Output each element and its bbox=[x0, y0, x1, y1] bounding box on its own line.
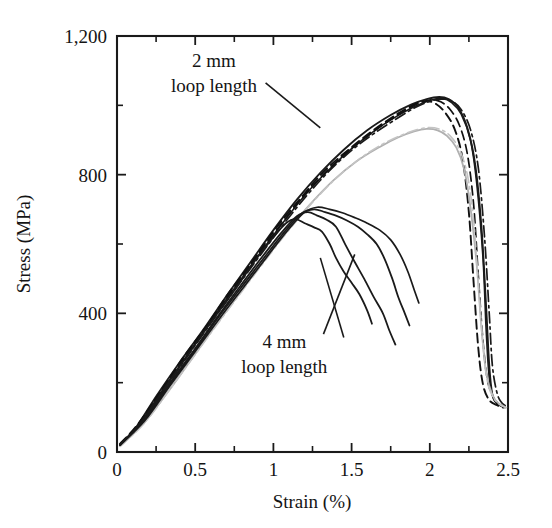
annotation-4mm-line2: loop length bbox=[241, 356, 328, 377]
y-tick-label: 1,200 bbox=[64, 26, 107, 47]
curve-2mm-gray-dashed bbox=[120, 128, 506, 447]
data-curves bbox=[120, 97, 506, 446]
curve-4mm-solid-1 bbox=[120, 219, 372, 445]
annotation-2mm-leader bbox=[266, 83, 321, 128]
x-axis-title: Strain (%) bbox=[273, 491, 352, 513]
curve-4mm-solid-2 bbox=[120, 212, 395, 445]
annotation-4mm-line1: 4 mm bbox=[262, 331, 306, 352]
y-axis-title: Stress (MPa) bbox=[13, 195, 35, 294]
x-tick-label: 2.5 bbox=[496, 459, 520, 480]
x-tick-label: 1.5 bbox=[340, 459, 364, 480]
curve-2mm-dashed-1 bbox=[120, 101, 503, 444]
y-tick-label: 0 bbox=[98, 442, 108, 463]
annotation-4mm-leader-2-leader bbox=[320, 258, 343, 338]
curve-2mm-dashed-2 bbox=[120, 100, 505, 445]
y-tick-label: 800 bbox=[79, 165, 108, 186]
annotation-2mm-line2: loop length bbox=[171, 75, 258, 96]
annotation-labels: 2 mmloop length4 mmloop length bbox=[171, 50, 328, 377]
curve-2mm-dashdot-1 bbox=[120, 99, 506, 446]
x-tick-label: 2 bbox=[425, 459, 435, 480]
axis-ticks bbox=[117, 36, 508, 452]
stress-strain-figure: 00.511.522.5 04008001,200 2 mmloop lengt… bbox=[0, 0, 552, 528]
y-tick-labels: 04008001,200 bbox=[64, 26, 107, 463]
chart-canvas: 00.511.522.5 04008001,200 2 mmloop lengt… bbox=[0, 0, 552, 528]
x-tick-labels: 00.511.522.5 bbox=[112, 459, 520, 480]
curve-2mm-gray-1 bbox=[120, 129, 505, 446]
x-tick-label: 0 bbox=[112, 459, 122, 480]
curve-2mm-solid-2 bbox=[120, 98, 505, 445]
annotation-2mm-line1: 2 mm bbox=[192, 50, 236, 71]
curve-2mm-solid-1 bbox=[120, 97, 503, 444]
x-tick-label: 0.5 bbox=[183, 459, 207, 480]
x-tick-label: 1 bbox=[269, 459, 279, 480]
plot-frame bbox=[117, 36, 508, 452]
y-tick-label: 400 bbox=[79, 303, 108, 324]
